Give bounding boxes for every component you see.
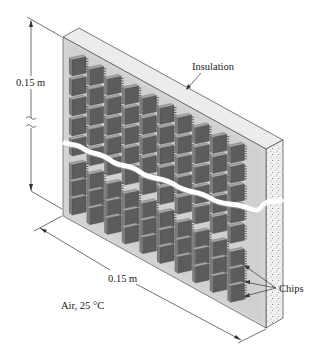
chip-icon <box>139 134 159 155</box>
chip-icon <box>122 124 142 145</box>
chip-icon <box>122 104 142 125</box>
insulation-arrow <box>186 73 201 90</box>
chip-icon <box>157 144 177 165</box>
chip-icon <box>227 182 247 203</box>
chips-label: Chips <box>279 283 304 294</box>
chip-icon <box>175 153 195 174</box>
chip-icon <box>104 74 124 95</box>
chip-icon <box>104 114 124 135</box>
chip-icon <box>192 163 212 184</box>
chip-icon <box>210 213 230 234</box>
chip-icon <box>139 94 159 115</box>
chip-icon <box>192 123 212 144</box>
chip-icon <box>139 114 159 135</box>
chip-icon <box>192 143 212 164</box>
chip-icon <box>69 55 89 76</box>
chip-icon <box>227 281 247 302</box>
chip-icon <box>139 233 159 254</box>
height-dimension-label: 0.15 m <box>16 77 45 88</box>
chip-icon <box>157 124 177 145</box>
height-dimension <box>26 17 62 209</box>
chip-icon <box>87 85 107 106</box>
chip-icon <box>175 113 195 134</box>
chip-icon <box>227 162 247 183</box>
chip-icon <box>104 134 124 155</box>
chip-icon <box>122 144 142 165</box>
chip-icon <box>69 95 89 116</box>
ambient-air-label: Air, 25 °C <box>61 300 104 311</box>
chip-icon <box>175 193 195 214</box>
chip-icon <box>104 94 124 115</box>
chip-icon <box>87 65 107 86</box>
chip-icon <box>210 272 230 293</box>
chip-icon <box>227 142 247 163</box>
chip-icon <box>210 133 230 154</box>
width-dimension-label: 0.15 m <box>108 273 137 284</box>
chip-icon <box>157 243 177 264</box>
chip-icon <box>157 104 177 125</box>
chip-icon <box>175 133 195 154</box>
chip-icon <box>104 213 124 234</box>
chip-icon <box>87 125 107 146</box>
chip-icon <box>192 203 212 224</box>
chip-icon <box>87 204 107 225</box>
insulation-label: Insulation <box>192 61 235 72</box>
chip-icon <box>69 75 89 96</box>
chip-icon <box>210 173 230 194</box>
chip-icon <box>69 194 89 215</box>
chip-icon <box>192 262 212 283</box>
chip-icon <box>175 252 195 273</box>
board-diagram: 0.15 m 0.15 m Insulation Chips Air, 25 °… <box>0 0 320 356</box>
chip-icon <box>87 105 107 126</box>
chip-icon <box>122 84 142 105</box>
chip-icon <box>210 153 230 174</box>
insulation-side <box>266 140 283 328</box>
chip-icon <box>227 222 247 243</box>
chip-icon <box>122 223 142 244</box>
chip-icon <box>69 115 89 136</box>
